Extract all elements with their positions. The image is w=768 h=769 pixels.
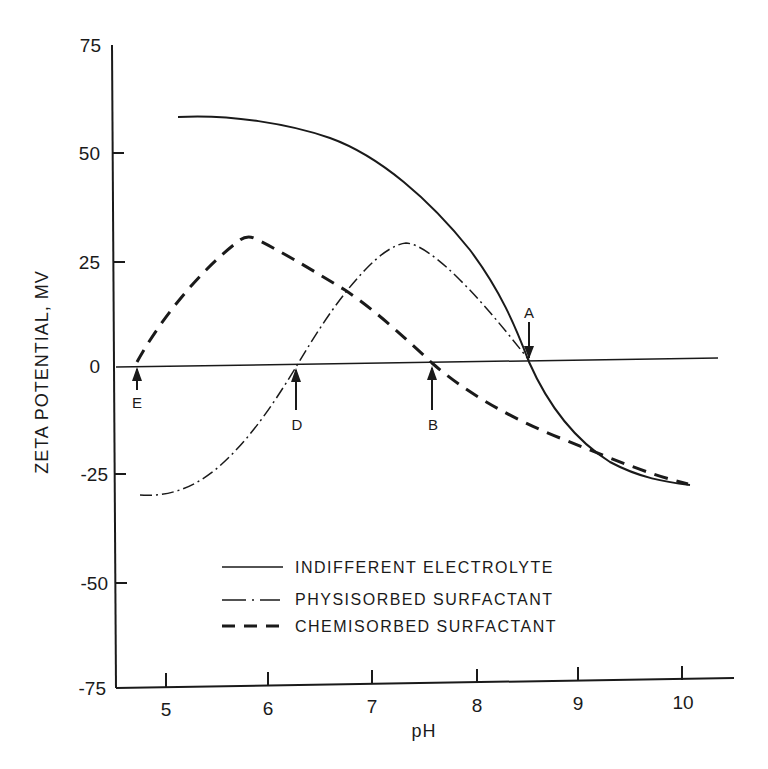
x-axis-title: pH (411, 721, 436, 741)
legend-item-physisorbed-surfactant: PHYSISORBED SURFACTANT (222, 591, 554, 608)
x-tick-5: 5 (161, 699, 172, 720)
marker-label-b: B (428, 416, 438, 433)
x-tick-10: 10 (672, 692, 693, 713)
x-tick-8: 8 (472, 695, 483, 716)
y-tick-neg75: -75 (79, 678, 106, 699)
x-tick-labels: 5 6 7 8 9 10 (161, 692, 694, 720)
marker-label-e: E (132, 394, 142, 411)
legend-label: CHEMISORBED SURFACTANT (295, 618, 557, 635)
y-tick-75: 75 (80, 35, 101, 56)
annotation-b: B (427, 366, 438, 433)
legend-item-chemisorbed-surfactant: CHEMISORBED SURFACTANT (222, 618, 557, 635)
y-axis-line (112, 45, 116, 688)
annotation-e: E (132, 367, 142, 411)
series-chemisorbed-surfactant (137, 237, 688, 484)
series-physisorbed-surfactant (140, 243, 529, 495)
y-tick-50: 50 (79, 143, 100, 164)
y-tick-neg50: -50 (81, 573, 108, 594)
legend-label: PHYSISORBED SURFACTANT (295, 591, 554, 608)
zeta-potential-chart: 75 50 25 0 -25 -50 -75 5 6 7 8 9 10 pH Z… (0, 0, 768, 769)
legend-label: INDIFFERENT ELECTROLYTE (295, 559, 554, 576)
legend-item-indifferent-electrolyte: INDIFFERENT ELECTROLYTE (222, 559, 554, 576)
x-axis-line (116, 678, 734, 688)
y-axis-title: ZETA POTENTIAL, MV (32, 270, 52, 474)
annotation-d: D (291, 368, 303, 433)
y-tick-0: 0 (89, 356, 100, 377)
y-tick-25: 25 (79, 252, 100, 273)
legend: INDIFFERENT ELECTROLYTE PHYSISORBED SURF… (222, 559, 557, 635)
marker-label-a: A (524, 304, 534, 321)
y-tick-neg25: -25 (81, 464, 108, 485)
marker-label-d: D (292, 416, 303, 433)
zero-line (116, 358, 718, 367)
x-tick-6: 6 (263, 698, 274, 719)
x-tick-7: 7 (367, 696, 378, 717)
y-tick-labels: 75 50 25 0 -25 -50 -75 (79, 35, 108, 699)
x-tick-9: 9 (573, 693, 584, 714)
